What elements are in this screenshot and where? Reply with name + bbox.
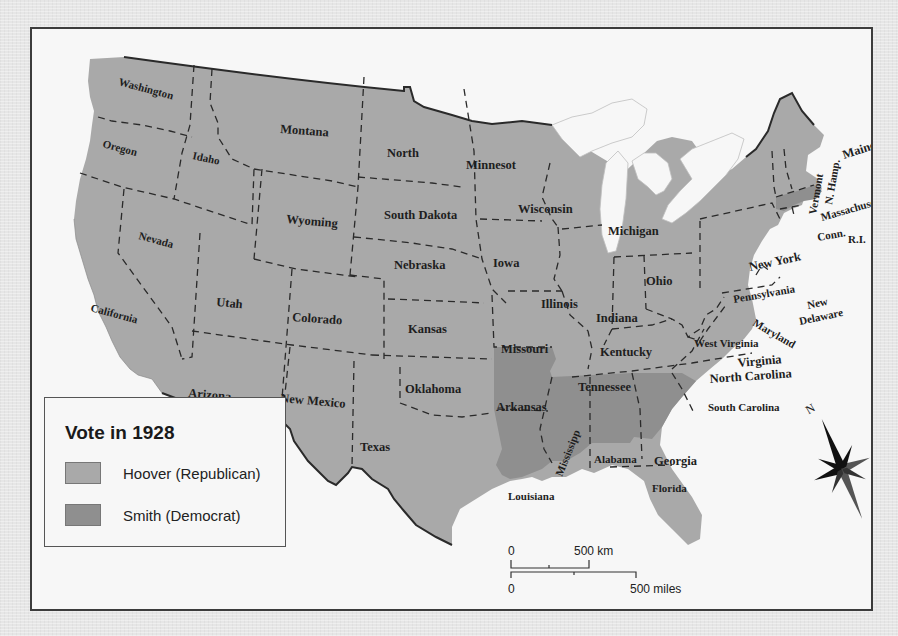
label-texas: Texas [360,440,390,454]
legend-title: Vote in 1928 [65,422,174,444]
label-minnesota: Minnesot [466,158,517,172]
legend-item-smith: Smith (Democrat) [65,504,241,526]
label-indiana: Indiana [596,311,638,325]
label-south-dakota: South Dakota [384,208,458,222]
label-kansas: Kansas [408,322,447,336]
legend-swatch-republican [65,462,101,484]
legend-swatch-democrat [65,504,101,526]
label-florida: Florida [652,482,687,494]
label-rhode-island: R.I. [848,233,866,245]
legend-label-democrat: Smith (Democrat) [123,507,241,524]
compass-rose-icon: N [802,399,873,539]
label-arkansas: Arkansas [496,400,547,414]
scale-mi-label: 500 miles [630,582,681,596]
label-maine: Maine [841,138,871,162]
label-utah: Utah [216,295,244,311]
label-new-hampshire: N. Hamp. [822,158,842,205]
map-frame: Washington Oregon California Nevada Idah… [30,27,873,611]
label-west-virginia: West Virginia [694,337,759,349]
label-louisiana: Louisiana [508,490,555,502]
label-oklahoma: Oklahoma [405,382,462,396]
label-tennessee: Tennessee [578,380,631,394]
label-kentucky: Kentucky [600,345,653,359]
label-south-carolina: South Carolina [708,401,780,413]
legend: Vote in 1928 Hoover (Republican) Smith (… [44,397,286,547]
label-nebraska: Nebraska [394,258,446,272]
label-wisconsin: Wisconsin [518,202,573,216]
label-ohio: Ohio [646,274,672,288]
scale-bar: 0 500 km 0 500 miles [506,542,686,602]
label-alabama: Alabama [594,453,637,465]
label-iowa: Iowa [493,256,520,270]
label-north-dakota: North [387,146,419,160]
scale-mi-zero: 0 [508,582,515,596]
legend-item-hoover: Hoover (Republican) [65,462,261,484]
label-new-york: New York [748,249,802,274]
label-georgia: Georgia [654,454,698,468]
label-missouri: Missouri [501,342,549,356]
label-michigan: Michigan [608,224,659,238]
compass-north-label: N [803,400,818,417]
label-illinois: Illinois [541,297,578,311]
legend-label-republican: Hoover (Republican) [123,465,261,482]
label-north-carolina: North Carolina [709,366,793,386]
label-delaware: Delaware [798,306,844,327]
label-connecticut: Conn. [816,226,846,243]
